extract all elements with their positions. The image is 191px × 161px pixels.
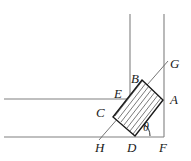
- figure-canvas: [0, 0, 191, 161]
- geometry-figure: G B A E C H D F θ: [0, 0, 191, 161]
- point-label-E: E: [114, 87, 122, 100]
- angle-label-theta: θ: [143, 121, 149, 133]
- point-label-F: F: [159, 141, 167, 154]
- point-label-A: A: [170, 93, 178, 106]
- point-label-H: H: [95, 141, 104, 154]
- point-label-B: B: [131, 72, 139, 85]
- point-label-G: G: [170, 57, 179, 70]
- hatched-rectangle: [109, 74, 170, 143]
- point-label-D: D: [127, 141, 136, 154]
- point-label-C: C: [96, 106, 105, 119]
